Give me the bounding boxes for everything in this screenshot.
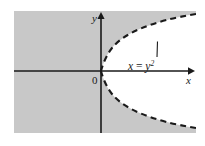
curve-label-exponent: 2: [150, 59, 154, 68]
curve-equation-label: x = y2: [127, 59, 154, 73]
origin-label: 0: [92, 74, 98, 86]
x-axis-label: x: [185, 74, 191, 86]
y-axis-label: y: [91, 12, 97, 24]
curve-label-operator: =: [133, 60, 145, 72]
figure-canvas: y x 0 x = y2: [0, 0, 205, 146]
curve-label-leader-line: [157, 42, 158, 58]
